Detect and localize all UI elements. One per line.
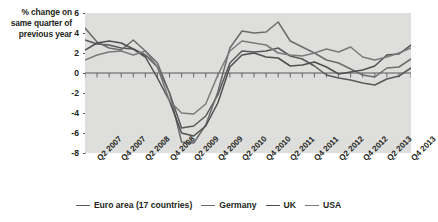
legend-label: Euro area (17 countries): [94, 200, 192, 210]
series-line-0: [85, 40, 411, 128]
legend-item[interactable]: USA: [305, 200, 341, 210]
legend-item[interactable]: Euro area (17 countries): [76, 200, 192, 210]
legend-label: UK: [284, 200, 296, 210]
y-tick-label: -4: [57, 109, 79, 118]
y-tick-label: 2: [57, 49, 79, 58]
legend-item[interactable]: UK: [266, 200, 296, 210]
y-tick-label: 4: [57, 29, 79, 38]
legend-swatch-line-icon: [305, 205, 319, 206]
legend-swatch-line-icon: [76, 205, 90, 206]
y-tick-label: -2: [57, 89, 79, 98]
y-tick-label: 6: [57, 9, 79, 18]
y-tick-label: 0: [57, 69, 79, 78]
legend-swatch-line-icon: [201, 205, 215, 206]
y-tick-label: -6: [57, 129, 79, 138]
legend-label: USA: [323, 200, 341, 210]
plot-area: [85, 13, 411, 153]
chart-legend: Euro area (17 countries)GermanyUKUSA: [0, 200, 417, 210]
x-tick-label: Q4 2013: [410, 135, 438, 163]
legend-label: Germany: [219, 200, 256, 210]
y-tick-label: -8: [57, 149, 79, 158]
legend-swatch-line-icon: [266, 205, 280, 206]
legend-item[interactable]: Germany: [201, 200, 256, 210]
